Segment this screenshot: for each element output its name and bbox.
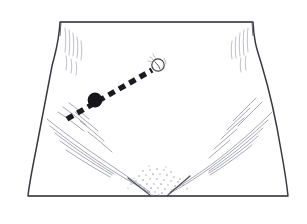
entry-point-marker <box>88 93 103 108</box>
figure-canvas: Lower abdomen and pelvis line drawing wi… <box>0 0 307 224</box>
anatomical-figure: Lower abdomen and pelvis line drawing wi… <box>0 0 307 224</box>
